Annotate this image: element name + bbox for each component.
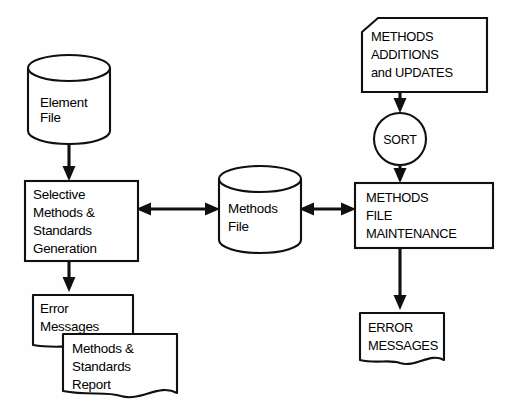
element-file-label-line2: File bbox=[40, 110, 61, 125]
methods-file-label-line1: Methods bbox=[228, 201, 278, 216]
connector-selective-to-methodsfile bbox=[136, 203, 220, 216]
connector-maintenance-to-error bbox=[394, 248, 407, 310]
error-messages-right-label-line2: MESSAGES bbox=[368, 338, 438, 353]
node-methods-standards-report[interactable]: Methods & Standards Report bbox=[63, 334, 177, 397]
node-element-file[interactable]: Element File bbox=[28, 55, 110, 144]
methods-additions-label-line2: ADDITIONS bbox=[371, 47, 439, 62]
sort-label: SORT bbox=[383, 133, 417, 147]
methods-standards-report-label-line3: Report bbox=[72, 377, 111, 392]
error-messages-right-label-line1: ERROR bbox=[368, 320, 413, 335]
methods-file-label-line2: File bbox=[228, 219, 249, 234]
flowchart-svg: Element File Selective Methods & Standar… bbox=[0, 0, 514, 419]
element-file-label-line1: Element bbox=[40, 95, 88, 110]
node-sort[interactable]: SORT bbox=[374, 113, 426, 165]
selective-generation-label-line2: Methods & bbox=[33, 205, 95, 220]
methods-standards-report-label-line1: Methods & bbox=[72, 341, 134, 356]
methods-file-maintenance-label-line2: FILE bbox=[366, 208, 393, 223]
connector-selective-to-error bbox=[63, 261, 76, 292]
connector-methodsfile-to-maintenance bbox=[299, 203, 356, 216]
error-messages-left-label-line1: Error bbox=[40, 301, 69, 316]
error-messages-left-label-line2: Messages bbox=[40, 319, 100, 334]
selective-generation-label-line3: Standards bbox=[33, 223, 92, 238]
methods-additions-label-line1: METHODS bbox=[371, 29, 433, 44]
node-error-messages-right[interactable]: ERROR MESSAGES bbox=[360, 313, 444, 364]
node-methods-additions[interactable]: METHODS ADDITIONS and UPDATES bbox=[362, 18, 487, 92]
selective-generation-label-line4: Generation bbox=[33, 241, 97, 256]
connector-sort-to-maintenance bbox=[394, 166, 407, 183]
node-methods-file[interactable]: Methods File bbox=[219, 166, 301, 253]
flowchart-canvas: Element File Selective Methods & Standar… bbox=[0, 0, 514, 419]
connector-additions-to-sort bbox=[394, 93, 407, 113]
connector-element-to-selective bbox=[63, 140, 76, 181]
methods-standards-report-label-line2: Standards bbox=[72, 359, 131, 374]
methods-additions-label-line3: and UPDATES bbox=[371, 65, 453, 80]
node-selective-generation[interactable]: Selective Methods & Standards Generation bbox=[25, 181, 138, 261]
node-methods-file-maintenance[interactable]: METHODS FILE MAINTENANCE bbox=[355, 183, 493, 248]
methods-file-maintenance-label-line1: METHODS bbox=[366, 190, 428, 205]
methods-file-maintenance-label-line3: MAINTENANCE bbox=[366, 226, 457, 241]
selective-generation-label-line1: Selective bbox=[33, 187, 85, 202]
